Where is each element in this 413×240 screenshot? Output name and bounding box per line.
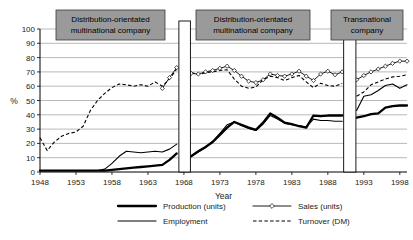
series-marker-sales: [196, 72, 200, 76]
x-axis-title: Year: [215, 191, 232, 201]
phase-annotation-line1: Distribution-orientated: [214, 15, 292, 24]
series-line-production: [357, 106, 407, 118]
x-tick-label: 1988: [319, 178, 337, 187]
x-tick-label: 1978: [247, 178, 265, 187]
phase-annotation-line1: Transnational: [343, 15, 391, 24]
series-marker-sales: [225, 64, 229, 68]
x-tick-label: 1958: [103, 178, 121, 187]
series-marker-sales: [254, 81, 258, 85]
phase-annotation-line2: multinational company: [213, 26, 293, 35]
x-tick-label: 1963: [139, 178, 157, 187]
y-tick-label: 10: [26, 154, 35, 163]
legend-item-production: Production (units): [163, 202, 226, 211]
chart-canvas: 0102030405060708090100194819531958196319…: [0, 0, 413, 240]
series-line-turnover: [357, 75, 407, 96]
legend-item-sales: Sales (units): [298, 202, 343, 211]
series-marker-sales: [290, 72, 294, 76]
x-tick-label: 1953: [67, 178, 85, 187]
series-marker-sales: [333, 73, 337, 77]
series-marker-sales: [391, 61, 395, 65]
y-tick-label: 60: [26, 82, 35, 91]
x-tick-label: 1948: [31, 178, 49, 187]
y-tick-label: 80: [26, 54, 35, 63]
y-tick-label: 40: [26, 111, 35, 120]
legend-marker-sales: [270, 204, 275, 209]
phase-separator-band: [179, 21, 191, 172]
series-marker-sales: [326, 69, 330, 73]
x-tick-label: 1998: [391, 178, 409, 187]
x-tick-label: 1983: [283, 178, 301, 187]
phase-annotation-line2: multinational company: [71, 26, 151, 35]
y-tick-label: 0: [31, 168, 36, 177]
x-tick-label: 1993: [355, 178, 373, 187]
legend-item-turnover: Turnover (DM): [298, 217, 350, 226]
x-tick-label: 1973: [211, 178, 229, 187]
y-axis-title: %: [10, 96, 18, 106]
y-tick-label: 100: [22, 25, 36, 34]
y-tick-label: 20: [26, 139, 35, 148]
series-marker-sales: [362, 73, 366, 77]
series-marker-sales: [376, 67, 380, 71]
series-marker-sales: [283, 74, 287, 78]
phase-annotation-line2: company: [351, 26, 383, 35]
x-tick-label: 1968: [175, 178, 193, 187]
y-tick-label: 30: [26, 125, 35, 134]
legend-item-employment: Employment: [163, 217, 208, 226]
series-line-turnover: [40, 69, 177, 151]
y-tick-label: 70: [26, 68, 35, 77]
phase-annotation-line1: Distribution-orientated: [71, 15, 149, 24]
series-marker-sales: [405, 59, 409, 63]
y-tick-label: 90: [26, 39, 35, 48]
chart-figure: 0102030405060708090100194819531958196319…: [0, 0, 413, 240]
series-line-production: [40, 153, 177, 170]
series-line-employment: [191, 116, 342, 157]
phase-separator-band: [344, 21, 356, 172]
series-marker-sales: [383, 64, 387, 68]
y-tick-label: 50: [26, 97, 35, 106]
series-marker-sales: [398, 59, 402, 63]
series-marker-sales: [369, 70, 373, 74]
